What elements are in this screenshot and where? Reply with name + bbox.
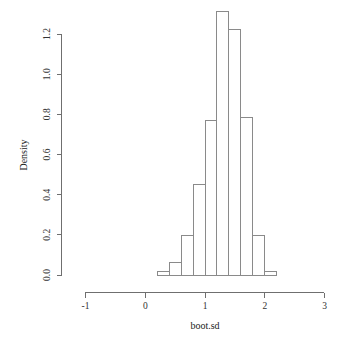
histogram-bar bbox=[241, 117, 253, 275]
histogram-bars bbox=[157, 12, 277, 275]
y-tick-label: 0.6 bbox=[42, 148, 52, 160]
histogram-bar bbox=[253, 236, 265, 275]
histogram-bar bbox=[217, 12, 229, 275]
y-tick-label: 0.8 bbox=[42, 108, 52, 120]
histogram-bar bbox=[169, 263, 181, 275]
x-tick-label: 3 bbox=[322, 301, 327, 311]
histogram-bar bbox=[265, 272, 277, 275]
x-axis-ticks bbox=[86, 293, 325, 298]
histogram-bar bbox=[229, 30, 241, 275]
x-tick-label: 0 bbox=[143, 301, 148, 311]
histogram-bar bbox=[205, 120, 217, 275]
plot-canvas: 0.0 0.2 0.4 0.6 0.8 1.0 1.2 Density -1 0… bbox=[0, 0, 340, 339]
y-axis-tick-labels: 0.0 0.2 0.4 0.6 0.8 1.0 1.2 bbox=[42, 28, 52, 281]
histogram-plot: 0.0 0.2 0.4 0.6 0.8 1.0 1.2 Density -1 0… bbox=[0, 0, 340, 339]
histogram-bar bbox=[181, 236, 193, 275]
y-tick-label: 0.0 bbox=[42, 269, 52, 281]
x-tick-label: -1 bbox=[82, 301, 90, 311]
y-axis-title: Density bbox=[18, 139, 29, 170]
x-tick-label: 2 bbox=[262, 301, 267, 311]
y-tick-label: 0.4 bbox=[42, 189, 52, 201]
y-tick-label: 0.2 bbox=[42, 229, 52, 241]
y-tick-label: 1.0 bbox=[42, 68, 52, 80]
x-tick-label: 1 bbox=[203, 301, 208, 311]
histogram-bar bbox=[157, 272, 169, 275]
y-tick-label: 1.2 bbox=[42, 28, 52, 40]
y-axis-ticks bbox=[57, 34, 62, 275]
x-axis-tick-labels: -1 0 1 2 3 bbox=[82, 301, 328, 311]
x-axis-title: boot.sd bbox=[190, 320, 219, 331]
histogram-bar bbox=[193, 185, 205, 275]
